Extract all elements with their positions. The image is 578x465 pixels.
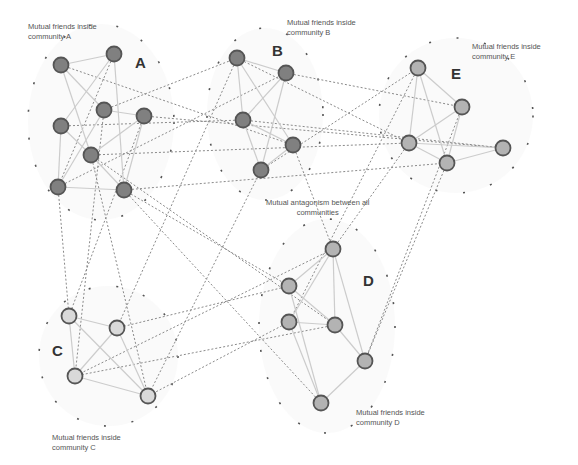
node-community-e [440,156,455,171]
label-community-a: A [135,54,146,71]
note-community-e: Mutual friends inside community E [472,42,541,62]
label-community-b: B [272,42,283,59]
network-graph [0,0,578,465]
note-community-a: Mutual friends inside community A [28,22,97,42]
note-community-d: Mutual friends inside community D [356,408,425,428]
note-community-c: Mutual friends inside community C [52,433,121,453]
node-community-b [286,138,301,153]
node-community-d [282,279,297,294]
node-community-c [110,321,125,336]
note-community-b: Mutual friends inside community B [287,18,356,38]
node-community-b [279,66,294,81]
node-community-b [230,51,245,66]
node-community-a [107,47,122,62]
node-community-c [62,309,77,324]
node-community-d [358,354,373,369]
node-community-a [117,183,132,198]
note-antagonism: Mutual antagonism between all communitie… [266,198,369,218]
node-community-a [84,148,99,163]
node-community-b [236,113,251,128]
node-community-d [328,318,343,333]
node-community-d [326,242,341,257]
node-community-e [411,61,426,76]
community-network-diagram: Mutual friends inside community A Mutual… [0,0,578,465]
label-community-c: C [52,342,63,359]
node-community-a [137,109,152,124]
label-community-d: D [363,272,374,289]
node-community-a [54,58,69,73]
node-community-e [402,136,417,151]
node-community-d [314,396,329,411]
node-community-b [254,163,269,178]
node-community-d [282,315,297,330]
label-community-e: E [451,65,461,82]
node-community-a [97,103,112,118]
community-boundaries [28,24,533,433]
node-community-e [496,141,511,156]
community-boundary-a [28,24,174,220]
node-community-e [455,100,470,115]
antagonism-edge [333,143,409,249]
node-community-c [141,389,156,404]
antagonism-edge [124,190,289,286]
node-community-a [51,180,66,195]
node-community-a [54,119,69,134]
node-community-c [68,369,83,384]
